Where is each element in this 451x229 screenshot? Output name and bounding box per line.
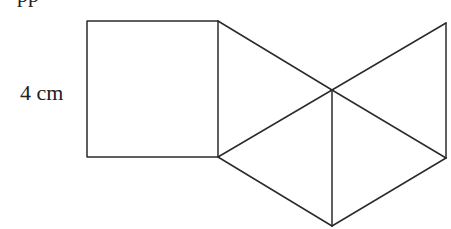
pyramid-net-diagram <box>0 0 451 229</box>
side-length-label: 4 cm <box>20 82 63 104</box>
edge-square-bottom-to-bottom <box>218 157 332 226</box>
net-drawing <box>0 0 451 229</box>
edge-square-top-to-center <box>218 21 332 90</box>
square-base <box>87 21 218 157</box>
edge-square-bottom-to-center <box>218 90 332 157</box>
cut-off-heading-text: pp <box>17 0 39 6</box>
edge-right-bottom-to-bottom <box>332 158 446 226</box>
edge-center-to-top-right <box>332 23 446 90</box>
edge-center-to-right-bottom <box>332 90 446 158</box>
